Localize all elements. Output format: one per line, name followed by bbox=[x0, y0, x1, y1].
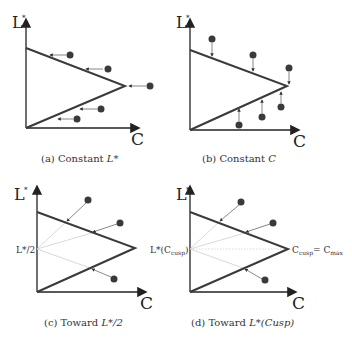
x-axis-label: C bbox=[293, 131, 306, 151]
panel-b-constant-c: L * C bbox=[176, 13, 306, 151]
caption-c: (c) Toward L*/2 bbox=[44, 317, 123, 328]
caption-d: (d) Toward L*(Cusp) bbox=[191, 317, 294, 328]
gamut-mapping-diagram: L * C L * C bbox=[0, 0, 352, 345]
x-axis-label: C bbox=[131, 129, 144, 149]
caption-b: (b) Constant C bbox=[202, 153, 276, 164]
svg-text:*: * bbox=[24, 186, 28, 194]
svg-text:*: * bbox=[186, 186, 190, 194]
cusp-c-label: Ccusp= Cmax bbox=[292, 245, 344, 257]
half-l-label: L*/2 bbox=[16, 245, 35, 255]
gamut-boundary bbox=[190, 50, 287, 130]
svg-text:*: * bbox=[22, 14, 26, 22]
svg-text:*: * bbox=[186, 14, 190, 22]
panel-a-constant-l: L * C bbox=[12, 13, 154, 149]
panel-d-toward-cusp: L*(Ccusp) Ccusp= Cmax L * C bbox=[150, 185, 344, 313]
guide-lines bbox=[190, 222, 288, 268]
x-axis-label: C bbox=[292, 293, 305, 313]
panel-c-toward-half-l: L*/2 L * C bbox=[14, 185, 153, 313]
out-of-gamut-dots bbox=[85, 197, 124, 283]
caption-a: (a) Constant L* bbox=[41, 153, 118, 164]
out-of-gamut-dots bbox=[238, 199, 277, 284]
out-of-gamut-dots bbox=[67, 52, 154, 123]
out-of-gamut-dots bbox=[209, 36, 293, 129]
x-axis-label: C bbox=[140, 293, 153, 313]
cusp-l-label: L*(Ccusp) bbox=[150, 245, 189, 257]
